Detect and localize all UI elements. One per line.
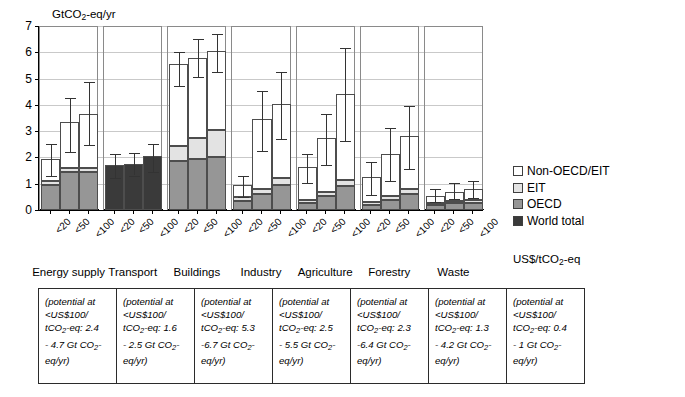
bar-segment-oecd	[252, 194, 271, 210]
x-axis-tick-label: <20	[52, 216, 72, 236]
note-line: <US$100/	[357, 308, 423, 321]
error-bar	[51, 144, 52, 176]
error-bar	[198, 39, 199, 77]
note-line: <US$100/	[201, 308, 267, 321]
error-bar-cap-upper	[110, 154, 121, 155]
note-line: tCO2-eq: 2.3	[357, 321, 423, 337]
legend-item-eit[interactable]: EIT	[513, 180, 610, 197]
bar-group-waste	[424, 26, 483, 210]
x-axis-tick-label: <100	[413, 216, 437, 240]
legend-item-nonoecd[interactable]: Non-OECD/EIT	[513, 163, 610, 180]
y-axis-tick-label: 3	[18, 124, 32, 138]
x-axis-tick-label: <20	[373, 216, 393, 236]
note-line: (potential at	[123, 295, 189, 308]
error-bar-cap-lower	[366, 195, 377, 196]
error-bar	[326, 114, 327, 165]
error-bar-cap-upper	[321, 114, 332, 115]
bar-segment-oecd	[464, 203, 483, 210]
note-line: tCO2-eq: 1.6	[123, 321, 189, 337]
bar-segment-oecd	[272, 185, 291, 210]
x-axis-tick-label: <50	[136, 216, 156, 236]
x-axis-tick-label: <100	[349, 216, 373, 240]
note-line: tCO2-eq: 2.5	[279, 321, 345, 337]
error-bar	[435, 189, 436, 202]
note-line: - 1 Gt CO2-	[513, 338, 579, 354]
error-bar-cap-lower	[404, 169, 415, 170]
error-bar	[454, 183, 455, 199]
note-line: - 5.5 Gt CO2-	[279, 338, 345, 354]
stacked-bar[interactable]	[188, 58, 207, 210]
error-bar-cap-lower	[276, 139, 287, 140]
legend-swatch-oecd	[513, 199, 523, 209]
note-line: - 4.2 Gt CO2-	[435, 338, 501, 354]
note-box-forestry: (potential at<US$100/tCO2-eq: 1.3- 4.2 G…	[428, 288, 507, 384]
legend-swatch-eit	[513, 183, 523, 193]
error-bar	[262, 91, 263, 150]
note-box-buildings: (potential at<US$100/tCO2-eq: 5.3-6.7 Gt…	[194, 288, 273, 384]
error-bar-cap-lower	[321, 165, 332, 166]
plot-area: 01234567	[39, 26, 483, 210]
note-line: -6.4 Gt CO2-	[357, 338, 423, 354]
error-bar-cap-lower	[340, 141, 351, 142]
error-bar-cap-upper	[404, 106, 415, 107]
x-axis-tick-label: <20	[309, 216, 329, 236]
bar-segment-oecd	[169, 161, 188, 210]
x-axis-tick-label: <100	[220, 216, 244, 240]
error-bar-cap-lower	[430, 202, 441, 203]
note-line: <US$100/	[513, 308, 579, 321]
x-axis-tick-label: <100	[285, 216, 309, 240]
bar-segment-oecd	[60, 172, 79, 210]
legend-item-world[interactable]: World total	[513, 213, 610, 230]
bar-group-agriculture	[296, 26, 355, 210]
bar-segment-oecd	[41, 185, 60, 210]
error-bar-cap-upper	[468, 181, 479, 182]
x-axis-tick-label: <20	[181, 216, 201, 236]
error-bar-cap-upper	[430, 189, 441, 190]
legend-swatch-nonoecd	[513, 166, 523, 176]
note-line: eq/yr)	[435, 354, 501, 367]
error-bar-cap-lower	[212, 72, 223, 73]
error-bar	[153, 144, 154, 172]
error-bar-cap-upper	[302, 154, 313, 155]
error-bar-cap-upper	[276, 72, 287, 73]
x-axis-tick-label: <100	[92, 216, 116, 240]
y-axis-tick-label: 0	[18, 203, 32, 217]
error-bar	[390, 128, 391, 181]
error-bar-cap-upper	[449, 183, 460, 184]
stacked-bar[interactable]	[207, 51, 226, 210]
error-bar	[115, 154, 116, 178]
error-bar-cap-lower	[468, 198, 479, 199]
note-line: <US$100/	[45, 308, 111, 321]
error-bar-cap-lower	[46, 176, 57, 177]
note-line: eq/yr)	[45, 354, 111, 367]
legend-label: Non-OECD/EIT	[527, 164, 610, 178]
note-line: <US$100/	[123, 308, 189, 321]
note-box-waste: (potential at<US$100/tCO2-eq: 0.4- 1 Gt …	[506, 288, 585, 384]
legend-item-oecd[interactable]: OECD	[513, 196, 610, 213]
bar-segment-eit	[207, 130, 226, 158]
potential-note-boxes: (potential at<US$100/tCO2-eq: 2.4- 4.7 G…	[38, 288, 585, 384]
y-axis-tick-label: 2	[18, 150, 32, 164]
bar-group-buildings	[167, 26, 226, 210]
bar-segment-oecd	[381, 200, 400, 211]
x-axis-tick-label: <50	[200, 216, 220, 236]
error-bar-cap-upper	[148, 144, 159, 145]
y-axis-tick-label: 5	[18, 72, 32, 86]
note-line: eq/yr)	[357, 354, 423, 367]
y-axis-tick-label: 7	[18, 19, 32, 33]
error-bar	[409, 106, 410, 169]
x-axis-tick-label: <20	[117, 216, 137, 236]
note-line: eq/yr)	[201, 354, 267, 367]
error-bar-cap-upper	[84, 82, 95, 83]
error-bar-cap-lower	[110, 178, 121, 179]
y-axis-tick-label: 6	[18, 45, 32, 59]
error-bar	[70, 98, 71, 152]
error-bar-cap-lower	[84, 145, 95, 146]
error-bar-cap-upper	[366, 162, 377, 163]
y-axis-tick-label: 4	[18, 98, 32, 112]
bar-group-energy-supply	[39, 26, 98, 210]
legend-label: World total	[527, 214, 584, 228]
note-line: (potential at	[45, 295, 111, 308]
error-bar-cap-upper	[340, 48, 351, 49]
x-axis-tick-label: <100	[156, 216, 180, 240]
